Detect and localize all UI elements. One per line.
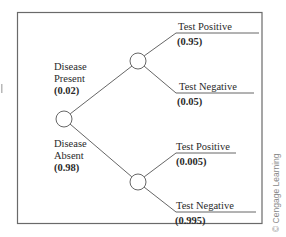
disease-absent-chance-node-circle xyxy=(130,174,146,190)
branch-label-disease: Disease xyxy=(54,138,87,149)
disease-present-chance-node-circle xyxy=(130,53,146,69)
outcome-label-test-negative: Test Negative xyxy=(179,81,237,92)
branch-probability-disease-present: (0.02) xyxy=(54,85,80,97)
outcome-probability-present-positive: (0.95) xyxy=(177,36,203,48)
probability-tree-figure: Disease Present (0.02) Disease Absent (0… xyxy=(0,0,286,237)
branch-probability-disease-absent: (0.98) xyxy=(54,162,80,174)
stray-mark xyxy=(1,84,3,93)
branch-label-disease: Disease xyxy=(54,61,87,72)
outcome-probability-absent-positive: (0.005) xyxy=(176,156,207,168)
outcome-probability-absent-negative: (0.995) xyxy=(175,215,206,227)
diagram-frame xyxy=(18,13,263,224)
outcome-label-test-positive: Test Positive xyxy=(178,21,232,32)
branch-label-absent: Absent xyxy=(54,150,84,161)
tree-diagram-canvas: Disease Present (0.02) Disease Absent (0… xyxy=(0,0,286,237)
branch-label-present: Present xyxy=(54,73,85,84)
outcome-label-test-negative: Test Negative xyxy=(176,200,234,211)
root-chance-node-circle xyxy=(56,111,72,127)
copyright-watermark: © Cengage Learning xyxy=(271,153,281,232)
outcome-probability-present-negative: (0.05) xyxy=(177,96,203,108)
outcome-label-test-positive: Test Positive xyxy=(176,141,230,152)
